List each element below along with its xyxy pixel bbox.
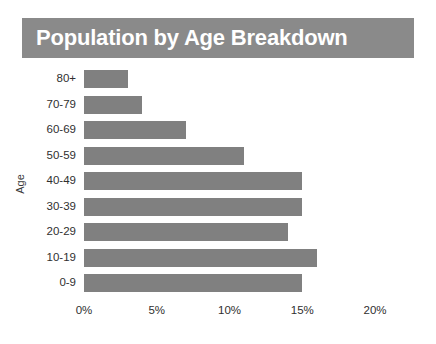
bar-row: 50-59 — [0, 145, 436, 171]
bar-row: 10-19 — [0, 247, 436, 273]
x-axis-tick-label: 5% — [132, 304, 182, 316]
bar-row: 70-79 — [0, 94, 436, 120]
x-axis: 0%5%10%15%20% — [0, 300, 436, 328]
bar-track — [84, 70, 128, 88]
bar-row: 60-69 — [0, 119, 436, 145]
bar-track — [84, 96, 142, 114]
bar-category-label: 30-39 — [0, 199, 76, 213]
bar-track — [84, 223, 288, 241]
x-axis-tick-label: 0% — [59, 304, 109, 316]
bar-track — [84, 249, 317, 267]
bar-track — [84, 198, 302, 216]
bar — [84, 70, 128, 88]
bar-category-label: 60-69 — [0, 122, 76, 136]
bar-category-label: 50-59 — [0, 148, 76, 162]
bar — [84, 121, 186, 139]
bar-row: 40-49 — [0, 170, 436, 196]
bar-track — [84, 172, 302, 190]
bar-category-label: 0-9 — [0, 275, 76, 289]
chart-page: Population by Age Breakdown Age 80+70-79… — [0, 0, 436, 344]
bar-row: 30-39 — [0, 196, 436, 222]
bar-row: 20-29 — [0, 221, 436, 247]
bar-category-label: 40-49 — [0, 173, 76, 187]
bar — [84, 249, 317, 267]
bar-track — [84, 121, 186, 139]
x-axis-tick-label: 10% — [205, 304, 255, 316]
bar — [84, 223, 288, 241]
bar-category-label: 10-19 — [0, 250, 76, 264]
bar-category-label: 80+ — [0, 71, 76, 85]
bar-track — [84, 147, 244, 165]
plot-area: Age 80+70-7960-6950-5940-4930-3920-2910-… — [0, 60, 436, 344]
page-title: Population by Age Breakdown — [22, 25, 348, 51]
bar-category-label: 70-79 — [0, 97, 76, 111]
bar-row: 80+ — [0, 68, 436, 94]
bar — [84, 96, 142, 114]
bar — [84, 198, 302, 216]
bar-track — [84, 274, 302, 292]
bar — [84, 147, 244, 165]
bar — [84, 172, 302, 190]
x-axis-tick-label: 15% — [277, 304, 327, 316]
bar-row: 0-9 — [0, 272, 436, 298]
title-banner: Population by Age Breakdown — [22, 18, 414, 58]
x-axis-tick-label: 20% — [350, 304, 400, 316]
bar-category-label: 20-29 — [0, 224, 76, 238]
bar — [84, 274, 302, 292]
